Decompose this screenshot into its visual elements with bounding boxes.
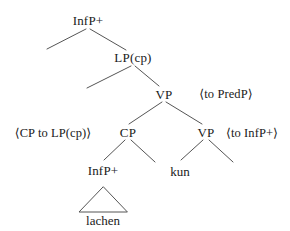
- annotation-to-predp: ⟨to PredP⟩: [199, 88, 252, 101]
- edge-cp-left: [104, 140, 125, 160]
- ellipsis-triangle: [79, 187, 127, 212]
- annotation-to-infp-plus: ⟨to InfP+⟩: [226, 127, 278, 140]
- tree-edges-svg: [0, 0, 290, 231]
- node-vp-lower: VP: [197, 126, 214, 139]
- edge-vp-lower-right: [209, 140, 233, 162]
- node-cp: CP: [120, 126, 136, 139]
- edge-lp-right: [135, 66, 159, 86]
- annotation-cp-to-lp-cp: ⟨CP to LP(cp)⟩: [15, 127, 92, 140]
- leaf-kun: kun: [170, 165, 190, 178]
- edge-lp-left: [87, 66, 131, 88]
- node-root-infp: InfP+: [73, 14, 104, 27]
- edge-root-right: [90, 29, 126, 50]
- edge-cp-right: [131, 140, 155, 162]
- edge-vp-upper-right: [166, 102, 202, 124]
- edge-vp-upper-left: [129, 102, 162, 124]
- syntax-tree-diagram: InfP+ LP(cp) VP ⟨to PredP⟩ ⟨CP to LP(cp)…: [0, 0, 290, 231]
- node-infp-embedded: InfP+: [88, 164, 119, 177]
- leaf-lachen: lachen: [86, 214, 120, 227]
- node-vp-upper: VP: [155, 88, 172, 101]
- edge-vp-lower-left: [181, 140, 203, 160]
- node-lp-cp: LP(cp): [114, 51, 151, 64]
- edge-root-left: [47, 29, 86, 49]
